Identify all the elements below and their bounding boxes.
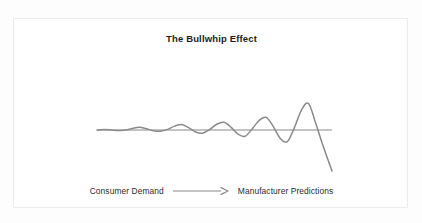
chart-plot-area bbox=[14, 45, 409, 175]
order-variability-line bbox=[97, 103, 332, 171]
consumer-demand-label: Consumer Demand bbox=[90, 186, 164, 196]
caption-row: Consumer Demand Manufacturer Predictions bbox=[14, 179, 409, 203]
bullwhip-wave-svg bbox=[14, 45, 409, 175]
screenshot-root: The Bullwhip Effect Consumer Demand Manu… bbox=[0, 0, 422, 223]
right-arrow-icon bbox=[173, 186, 229, 196]
manufacturer-predictions-label: Manufacturer Predictions bbox=[238, 186, 334, 196]
chart-title: The Bullwhip Effect bbox=[14, 33, 409, 44]
bullwhip-effect-card: The Bullwhip Effect Consumer Demand Manu… bbox=[13, 18, 408, 208]
